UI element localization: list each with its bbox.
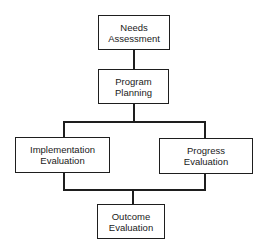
connector-needs-planning <box>133 49 135 69</box>
connector-merge-horizontal <box>63 189 206 191</box>
node-needs-assessment: Needs Assessment <box>98 15 170 50</box>
node-label-line: Assessment <box>108 33 160 44</box>
connector-progress-merge <box>204 173 206 190</box>
node-label-line: Program <box>115 76 151 87</box>
node-label-line: Outcome <box>112 211 151 222</box>
node-label-line: Needs <box>120 22 147 33</box>
node-label-line: Evaluation <box>40 155 84 166</box>
node-progress-evaluation: Progress Evaluation <box>159 138 253 174</box>
node-label-line: Implementation <box>30 144 95 155</box>
node-program-planning: Program Planning <box>98 69 169 104</box>
connector-merge-outcome <box>132 189 134 204</box>
connector-planning-split <box>133 103 135 122</box>
connector-split-horizontal <box>63 121 206 123</box>
node-label-line: Evaluation <box>109 222 153 233</box>
node-label-line: Progress <box>187 145 225 156</box>
node-implementation-evaluation: Implementation Evaluation <box>15 137 110 173</box>
node-label-line: Evaluation <box>184 156 228 167</box>
node-label-line: Planning <box>115 87 152 98</box>
connector-split-progress <box>204 121 206 138</box>
node-outcome-evaluation: Outcome Evaluation <box>97 204 165 239</box>
connector-implementation-merge <box>63 172 65 190</box>
connector-split-implementation <box>63 121 65 137</box>
